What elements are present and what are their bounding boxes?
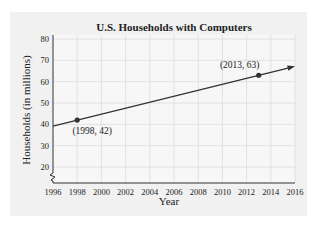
x-tick-label: 2008 bbox=[190, 187, 207, 197]
y-tick-label: 50 bbox=[41, 98, 50, 108]
x-axis-label: Year bbox=[159, 195, 180, 207]
x-tick-label: 2004 bbox=[141, 187, 159, 197]
y-tick-label: 30 bbox=[41, 141, 50, 151]
x-tick-label: 2012 bbox=[238, 187, 255, 197]
data-point-label: (2013, 63) bbox=[220, 60, 260, 71]
y-tick-label: 20 bbox=[41, 162, 50, 172]
data-point-label: (1998, 42) bbox=[72, 126, 112, 137]
x-tick-label: 2014 bbox=[262, 187, 280, 197]
x-tick-label: 1996 bbox=[45, 187, 62, 197]
line-chart: 1996199820002002200420062008201020122014… bbox=[0, 0, 316, 229]
y-tick-label: 40 bbox=[41, 119, 50, 129]
y-tick-label: 60 bbox=[41, 77, 50, 87]
x-tick-label: 2002 bbox=[117, 187, 134, 197]
data-point bbox=[75, 117, 80, 122]
x-tick-label: 2000 bbox=[93, 187, 110, 197]
chart-title: U.S. Households with Computers bbox=[96, 21, 252, 33]
y-axis-label: Households (in millions) bbox=[20, 55, 33, 165]
y-tick-label: 70 bbox=[41, 55, 50, 65]
y-tick-label: 80 bbox=[41, 34, 50, 44]
x-tick-label: 1998 bbox=[69, 187, 86, 197]
data-point bbox=[256, 73, 261, 78]
x-tick-label: 2016 bbox=[287, 187, 304, 197]
grid-lines bbox=[53, 35, 295, 183]
x-tick-label: 2010 bbox=[214, 187, 231, 197]
